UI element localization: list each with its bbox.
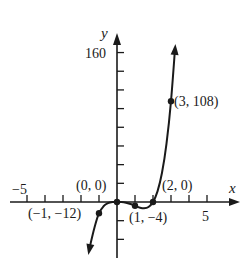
y-ticks: [117, 53, 124, 240]
point-label-origin: (0, 0): [76, 178, 107, 194]
y-axis-arrow-icon: [113, 33, 121, 45]
x-tick-label-5: 5: [202, 209, 209, 224]
point-label-1: (1, −4): [129, 210, 168, 226]
data-point: [150, 199, 156, 205]
x-axis-label: x: [228, 180, 236, 196]
curve-arrow-up-icon: [171, 44, 179, 55]
y-axis-label: y: [99, 25, 108, 41]
point-label-2: (2, 0): [162, 178, 193, 194]
data-point: [114, 199, 120, 205]
data-point: [96, 210, 102, 216]
point-label-neg1: (−1, −12): [28, 206, 81, 222]
x-tick-label-neg5: −5: [12, 182, 27, 197]
point-label-3: (3, 108): [174, 94, 219, 110]
curve-arrow-down-icon: [86, 243, 94, 255]
axes: [10, 33, 240, 258]
chart: x y −5 5 160 (−1, −12) (0, 0) (1, −4) (2…: [0, 0, 249, 270]
y-tick-label-160: 160: [85, 46, 106, 61]
data-point: [132, 203, 138, 209]
x-axis-arrow-icon: [229, 198, 240, 206]
